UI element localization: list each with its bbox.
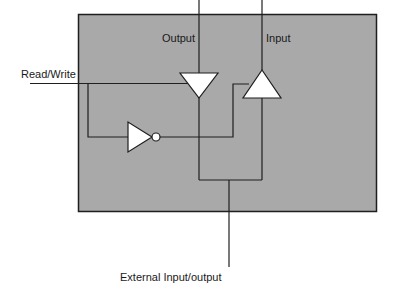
read-write-label: Read/Write — [21, 68, 76, 80]
chip-box — [79, 15, 377, 212]
inverter-bubble-icon — [152, 133, 160, 141]
input-label: Input — [266, 32, 290, 44]
output-label: Output — [162, 32, 195, 44]
external-io-label: External Input/output — [120, 271, 222, 283]
io-pin-diagram — [0, 0, 396, 291]
